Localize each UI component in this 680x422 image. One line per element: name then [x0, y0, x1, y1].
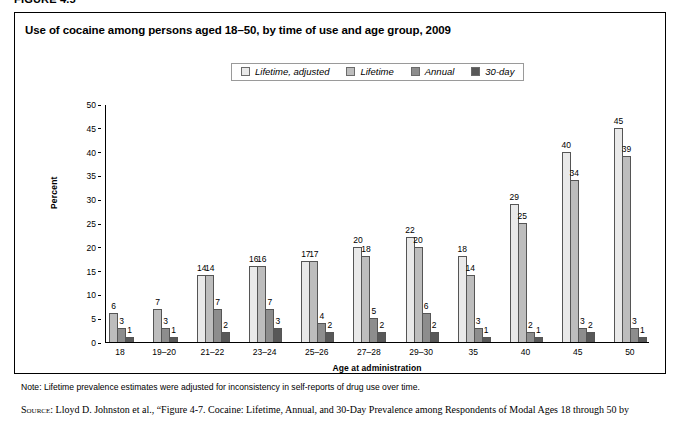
x-axis-tick-label: 21–22	[196, 347, 228, 357]
y-axis-tick-label: 5	[83, 314, 96, 324]
x-axis-title: Age at administration	[105, 363, 649, 373]
y-axis-tick-mark	[98, 200, 101, 201]
y-axis-tick-label: 0	[83, 338, 96, 348]
bar[interactable]: 1	[534, 337, 543, 342]
bar-value-label: 39	[622, 145, 631, 154]
source-label: Source:	[21, 404, 53, 415]
bar[interactable]: 2	[586, 332, 595, 342]
bar-value-label: 1	[536, 326, 541, 335]
y-axis-title: Percent	[49, 176, 59, 209]
bar-value-label: 45	[614, 117, 623, 126]
y-axis-tick: 25	[83, 219, 101, 229]
bar-value-label: 1	[171, 326, 176, 335]
legend-swatch-icon	[411, 67, 420, 76]
bar-value-label: 25	[518, 212, 527, 221]
bar-group: 403432	[562, 105, 594, 342]
y-axis-tick: 10	[83, 290, 101, 300]
bar[interactable]: 2	[221, 332, 230, 342]
bar-value-label: 17	[309, 250, 318, 259]
legend-item[interactable]: Lifetime	[346, 67, 393, 77]
x-axis-tick-label: 23–24	[249, 347, 281, 357]
bar-value-label: 29	[510, 193, 519, 202]
bar-value-label: 22	[405, 226, 414, 235]
y-axis-tick-mark	[98, 128, 101, 129]
bar[interactable]: 34	[570, 180, 579, 342]
bar-group: 161673	[249, 105, 281, 342]
y-axis-tick-label: 50	[83, 100, 96, 110]
bar[interactable]: 2	[377, 332, 386, 342]
plot-area: Percent 05101520253035404550 63173114147…	[53, 105, 653, 367]
y-axis-tick: 35	[83, 171, 101, 181]
legend-item[interactable]: Lifetime, adjusted	[241, 67, 329, 77]
legend-item[interactable]: Annual	[411, 67, 455, 77]
bar-value-label: 18	[457, 245, 466, 254]
y-axis-tick-mark	[98, 319, 101, 320]
legend-label: Lifetime	[360, 67, 393, 77]
plot-axes: 6317311414721616731717422018522220621814…	[105, 105, 649, 343]
chart-title: Use of cocaine among persons aged 18–50,…	[25, 24, 451, 36]
bar-value-label: 40	[562, 141, 571, 150]
figure-number: FIGURE 4.5	[14, 0, 76, 5]
y-axis-tick: 20	[83, 243, 101, 253]
bar-value-label: 16	[257, 255, 266, 264]
x-axis-tick-label: 18	[108, 347, 132, 357]
bar-value-label: 1	[484, 326, 489, 335]
y-axis-tick: 45	[83, 124, 101, 134]
bar[interactable]: 1	[482, 337, 491, 342]
y-axis-tick-label: 35	[83, 171, 96, 181]
bar-value-label: 14	[465, 264, 474, 273]
bar[interactable]: 2	[325, 332, 334, 342]
y-axis-tick: 5	[83, 314, 101, 324]
legend-item[interactable]: 30-day	[471, 67, 514, 77]
legend-swatch-icon	[241, 67, 250, 76]
bar[interactable]: 39	[622, 156, 631, 342]
bar-value-label: 1	[127, 326, 132, 335]
legend-label: Lifetime, adjusted	[255, 67, 329, 77]
figure-page: FIGURE 4.5 Use of cocaine among persons …	[0, 0, 680, 422]
bar-value-label: 4	[320, 312, 325, 321]
legend-swatch-icon	[471, 67, 480, 76]
bar-value-label: 3	[580, 317, 585, 326]
bar-value-label: 7	[155, 298, 160, 307]
x-axis-tick-label: 25–26	[301, 347, 333, 357]
bar-value-label: 14	[205, 264, 214, 273]
x-axis-tick-label: 29–30	[405, 347, 437, 357]
y-axis-tick-mark	[98, 295, 101, 296]
y-axis-tick: 50	[83, 100, 101, 110]
bar-value-label: 2	[380, 321, 385, 330]
bar[interactable]: 25	[518, 223, 527, 342]
bar-value-label: 7	[215, 298, 220, 307]
source-text: Lloyd D. Johnston et al., “Figure 4-7. C…	[53, 404, 629, 415]
bar[interactable]: 1	[169, 337, 178, 342]
bar-group: 201852	[353, 105, 385, 342]
y-axis-tick-label: 20	[83, 243, 96, 253]
bar-group: 181431	[458, 105, 490, 342]
bar-value-label: 20	[353, 236, 362, 245]
y-axis-tick-label: 25	[83, 219, 96, 229]
legend-label: Annual	[425, 67, 455, 77]
bar[interactable]: 3	[273, 328, 282, 342]
bar-value-label: 6	[424, 302, 429, 311]
x-axis-tick-label: 19–20	[152, 347, 176, 357]
note-text: Lifetime prevalence estimates were adjus…	[42, 382, 420, 392]
x-axis-tick-label: 27–28	[353, 347, 385, 357]
y-axis-tick-label: 10	[83, 290, 96, 300]
y-axis-tick-label: 15	[83, 267, 96, 277]
bar[interactable]: 1	[125, 337, 134, 342]
y-axis-tick-mark	[98, 224, 101, 225]
x-axis-tick-label: 35	[457, 347, 489, 357]
bar-value-label: 5	[372, 307, 377, 316]
bar-value-label: 3	[476, 317, 481, 326]
x-axis-tick-label: 45	[562, 347, 594, 357]
bar-value-label: 6	[111, 302, 116, 311]
bar-value-label: 2	[328, 321, 333, 330]
y-axis-tick: 40	[83, 148, 101, 158]
y-axis-ticks: 05101520253035404550	[67, 105, 101, 343]
bar[interactable]: 1	[638, 337, 647, 342]
bar-group: 731	[153, 105, 177, 342]
x-axis-tick-label: 40	[510, 347, 542, 357]
bar-value-label: 2	[528, 321, 533, 330]
bar-group: 171742	[301, 105, 333, 342]
y-axis-tick-label: 45	[83, 124, 96, 134]
bar[interactable]: 2	[430, 332, 439, 342]
